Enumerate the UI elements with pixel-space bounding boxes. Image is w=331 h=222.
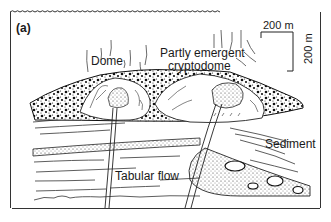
cryptodome-core (212, 83, 243, 108)
scale-bar-horizontal-label: 200 m (263, 19, 294, 32)
panel-label: (a) (16, 22, 31, 35)
water-surface-wavy-line (10, 11, 220, 12)
hyaloclastite-band (33, 138, 200, 156)
scale-bar-vertical-label: 200 m (302, 33, 315, 64)
dome-label: Dome (91, 55, 123, 68)
scale-bar (261, 32, 293, 71)
volcanic-cross-section-diagram (0, 0, 331, 222)
tabular-flow-label: Tabular flow (115, 170, 179, 183)
sediment-label: Sediment (265, 138, 316, 151)
cryptodome-label-line2: cryptodome (168, 60, 231, 73)
